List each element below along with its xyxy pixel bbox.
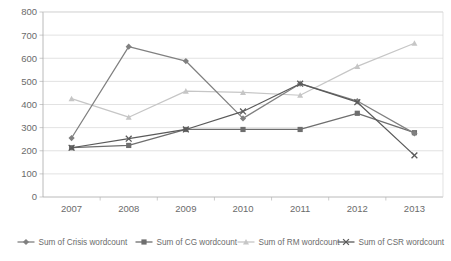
y-axis-tick-label: 0 xyxy=(32,191,37,202)
x-axis-tick-label: 2008 xyxy=(118,203,139,214)
y-axis-tick-label: 800 xyxy=(21,6,37,17)
y-axis-tick-label: 500 xyxy=(21,76,37,87)
x-axis-tick-label: 2007 xyxy=(61,203,82,214)
data-point-marker xyxy=(126,44,132,50)
y-axis-tick-label: 300 xyxy=(21,122,37,133)
legend-label: Sum of CG wordcount xyxy=(157,238,238,247)
data-point-marker xyxy=(23,239,29,245)
legend-item-1[interactable]: Sum of CG wordcount xyxy=(136,238,238,247)
legend-label: Sum of Crisis wordcount xyxy=(39,238,128,247)
data-point-marker xyxy=(355,111,360,116)
y-axis-tick-label: 100 xyxy=(21,168,37,179)
chart-canvas: 0100200300400500600700800 20072008200920… xyxy=(0,0,451,261)
legend-item-3[interactable]: Sum of CSR wordcount xyxy=(338,238,445,247)
chart-legend: Sum of Crisis wordcountSum of CG wordcou… xyxy=(18,238,445,247)
legend-item-2[interactable]: Sum of RM wordcount xyxy=(238,238,341,247)
data-point-marker xyxy=(240,127,245,132)
data-point-marker xyxy=(126,143,131,148)
data-point-marker xyxy=(411,40,417,46)
chart-axes xyxy=(43,12,443,201)
y-axis-tick-label: 200 xyxy=(21,145,37,156)
x-axis-tick-label: 2012 xyxy=(347,203,368,214)
x-axis-tick-label: 2011 xyxy=(290,203,310,214)
legend-label: Sum of CSR wordcount xyxy=(359,238,445,247)
data-point-marker xyxy=(141,239,146,244)
series-2 xyxy=(69,40,418,120)
series-line xyxy=(72,43,415,117)
chart-gridlines xyxy=(40,12,444,197)
data-point-marker xyxy=(412,152,418,158)
y-axis-tick-label: 600 xyxy=(21,53,37,64)
x-axis-tick-label: 2010 xyxy=(232,203,253,214)
y-axis-tick-label: 700 xyxy=(21,30,37,41)
line-chart: 0100200300400500600700800 20072008200920… xyxy=(0,0,451,261)
data-point-marker xyxy=(298,127,303,132)
y-axis-tick-label: 400 xyxy=(21,99,37,110)
data-point-marker xyxy=(69,96,75,102)
x-axis-tick-label: 2013 xyxy=(404,203,425,214)
data-point-marker xyxy=(68,135,74,141)
chart-yaxis-labels: 0100200300400500600700800 xyxy=(21,6,37,202)
legend-label: Sum of RM wordcount xyxy=(259,238,341,247)
chart-xaxis-labels: 2007200820092010201120122013 xyxy=(61,203,425,214)
x-axis-tick-label: 2009 xyxy=(175,203,196,214)
legend-item-0[interactable]: Sum of Crisis wordcount xyxy=(18,238,128,247)
